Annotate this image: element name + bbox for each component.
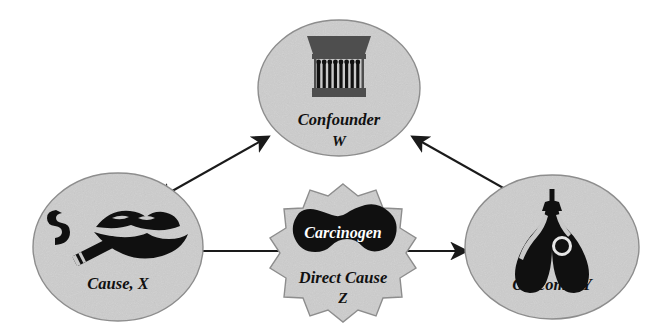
diagram-canvas: Confounder W Cause, X Carcinogen Direct …	[0, 0, 666, 335]
node-outcome-label: Outcome, Y	[512, 275, 593, 294]
node-direct-cause[interactable]: Carcinogen Direct Cause Z	[270, 184, 416, 322]
node-cause[interactable]: Cause, X	[33, 173, 203, 321]
edge-cause-confounder	[158, 137, 268, 199]
node-direct-cause-inner-label: Carcinogen	[304, 224, 381, 242]
matchbox-icon	[307, 36, 371, 97]
node-outcome[interactable]: Outcome, Y	[465, 175, 639, 319]
node-confounder[interactable]: Confounder W	[258, 20, 420, 156]
double-arrow-icon	[158, 137, 268, 199]
node-confounder-label-line1: Confounder	[298, 110, 381, 129]
causal-diagram: Confounder W Cause, X Carcinogen Direct …	[0, 0, 666, 335]
node-direct-cause-label-line1: Direct Cause	[298, 268, 387, 287]
node-cause-label: Cause, X	[87, 274, 149, 293]
node-direct-cause-label-line2: Z	[337, 289, 348, 306]
node-confounder-label-line2: W	[332, 132, 347, 149]
